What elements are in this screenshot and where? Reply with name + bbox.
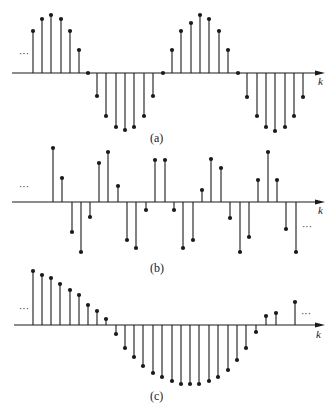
stem-marker	[216, 375, 220, 379]
stem-marker	[97, 161, 101, 165]
stem-marker	[51, 146, 55, 150]
stem-marker	[95, 309, 99, 313]
stem-marker	[226, 368, 230, 372]
stem-marker	[293, 300, 297, 304]
stem-marker	[163, 158, 167, 162]
stem-marker	[264, 314, 268, 318]
stem-marker	[123, 128, 127, 132]
stem-marker	[79, 250, 83, 254]
axis-arrow-icon	[315, 323, 325, 328]
stem-marker	[40, 273, 44, 277]
stem-marker	[238, 250, 242, 254]
stem-marker	[264, 125, 268, 129]
stem-marker	[151, 371, 155, 375]
stem-marker	[77, 293, 81, 297]
axis-label-k: k	[316, 328, 322, 340]
stem-marker	[301, 95, 305, 99]
stem-marker	[207, 17, 211, 21]
stem-marker	[95, 94, 99, 98]
stem-marker	[59, 17, 63, 21]
stem-marker	[292, 114, 296, 118]
stem-marker	[181, 246, 185, 250]
stem-marker	[114, 332, 118, 336]
stem-marker	[142, 114, 146, 118]
continuation-left: ···	[19, 48, 29, 59]
stem-marker	[274, 311, 278, 315]
continuation-right: ···	[302, 221, 312, 232]
stem-marker	[86, 71, 90, 75]
stem-marker	[245, 95, 249, 99]
stem-marker	[77, 48, 81, 52]
stem-marker	[114, 125, 118, 129]
stem-marker	[106, 150, 110, 154]
stem-marker	[31, 29, 35, 33]
stem-marker	[235, 358, 239, 362]
stem-marker	[179, 29, 183, 33]
axis-label-k: k	[318, 204, 324, 216]
stem-marker	[228, 216, 232, 220]
caption-a: (a)	[150, 131, 163, 145]
stem-marker	[49, 13, 53, 17]
stem-marker	[219, 166, 223, 170]
stem-marker	[125, 238, 129, 242]
stem-marker	[161, 71, 165, 75]
stem-marker	[172, 208, 176, 212]
stem-marker	[179, 382, 183, 386]
stem-marker	[70, 230, 74, 234]
stem-marker	[134, 246, 138, 250]
stem-marker	[247, 235, 251, 239]
stem-marker	[141, 364, 145, 368]
stem-marker	[60, 176, 64, 180]
stem-marker	[144, 208, 148, 212]
stem-marker	[209, 157, 213, 161]
stem-marker	[207, 379, 211, 383]
stem-marker	[104, 114, 108, 118]
stem-marker	[170, 48, 174, 52]
stem-marker	[283, 125, 287, 129]
stem-marker	[132, 125, 136, 129]
stem-marker	[266, 150, 270, 154]
stem-plots: k···(a)k······(b)k······(c)	[0, 0, 336, 412]
axis-label-k: k	[318, 75, 324, 87]
stem-marker	[188, 382, 192, 386]
continuation-left: ···	[19, 181, 29, 192]
stem-marker	[244, 346, 248, 350]
stem-marker	[160, 375, 164, 379]
stem-marker	[132, 355, 136, 359]
figure: k···(a)k······(b)k······(c) (a) (b) (c)	[0, 0, 336, 412]
stem-marker	[200, 188, 204, 192]
stem-marker	[254, 330, 258, 334]
stem-marker	[273, 129, 277, 133]
stem-marker	[255, 114, 259, 118]
stem-marker	[68, 29, 72, 33]
continuation-left: ···	[19, 303, 29, 314]
caption-c: (c)	[150, 389, 163, 403]
stem-marker	[153, 158, 157, 162]
stem-marker	[236, 71, 240, 75]
stem-marker	[104, 317, 108, 321]
stem-marker	[197, 382, 201, 386]
stem-marker	[226, 48, 230, 52]
caption-b: (b)	[150, 261, 164, 275]
stem-marker	[217, 29, 221, 33]
stem-marker	[88, 215, 92, 219]
stem-marker	[40, 17, 44, 21]
stem-marker	[123, 346, 127, 350]
stem-marker	[275, 178, 279, 182]
stem-marker	[189, 21, 193, 25]
stem-marker	[151, 94, 155, 98]
stem-marker	[198, 13, 202, 17]
stem-marker	[170, 379, 174, 383]
stem-marker	[49, 276, 53, 280]
stem-marker	[191, 238, 195, 242]
stem-marker	[284, 227, 288, 231]
stem-marker	[86, 303, 90, 307]
stem-marker	[68, 288, 72, 292]
stem-marker	[294, 250, 298, 254]
stem-marker	[256, 178, 260, 182]
stem-marker	[116, 184, 120, 188]
stem-marker	[58, 282, 62, 286]
stem-marker	[31, 269, 35, 273]
continuation-right: ···	[301, 308, 311, 319]
